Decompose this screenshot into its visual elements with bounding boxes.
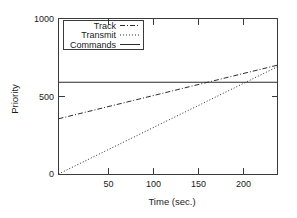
- x-axis-ticks: [109, 19, 244, 175]
- x-axis-title: Time (sec.): [148, 196, 195, 207]
- chart-container: 1000 500 0 50 100 150 200 Time (sec.) Pr…: [0, 0, 297, 218]
- x-tick-label-200: 200: [236, 179, 251, 189]
- y-tick-label-0: 0: [49, 169, 54, 179]
- legend-label-transmit: Transmit: [81, 30, 116, 40]
- x-tick-label-50: 50: [103, 179, 113, 189]
- legend-label-commands: Commands: [70, 40, 117, 50]
- x-axis-tick-labels: 50 100 150 200: [103, 179, 251, 189]
- series-group: [59, 65, 278, 174]
- y-axis-tick-labels: 1000 500 0: [34, 14, 54, 179]
- x-tick-label-150: 150: [191, 179, 206, 189]
- legend-label-track: Track: [94, 21, 117, 31]
- priority-vs-time-chart: 1000 500 0 50 100 150 200 Time (sec.) Pr…: [0, 0, 297, 218]
- series-line-track: [59, 65, 278, 119]
- y-tick-label-1000: 1000: [34, 14, 54, 24]
- y-tick-label-500: 500: [39, 92, 54, 102]
- y-axis-title: Priority: [9, 84, 20, 114]
- legend: Track Transmit Commands: [64, 21, 144, 50]
- x-tick-label-100: 100: [146, 179, 161, 189]
- series-line-transmit: [59, 67, 278, 174]
